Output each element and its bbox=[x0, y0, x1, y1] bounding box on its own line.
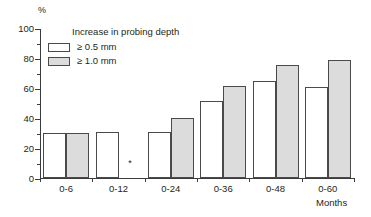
x-axis-tick-0-60 bbox=[302, 178, 303, 182]
bar-0-48-series-2 bbox=[276, 65, 299, 178]
x-axis-label-0-36: 0-36 bbox=[197, 183, 249, 194]
x-axis-label-0-24: 0-24 bbox=[145, 183, 197, 194]
y-axis-tick-60 bbox=[35, 89, 40, 90]
x-axis-label-0-48: 0-48 bbox=[249, 183, 301, 194]
y-axis-tick-10 bbox=[37, 164, 40, 165]
y-axis-tick-40 bbox=[35, 119, 40, 120]
bar-chart: % 100 80 60 40 20 0 0-6*0-120-240-360-48… bbox=[0, 0, 371, 217]
x-axis-tick-0-48 bbox=[249, 178, 250, 182]
x-axis-label-0-6: 0-6 bbox=[40, 183, 92, 194]
bar-0-24-series-1 bbox=[148, 132, 171, 178]
legend-swatch-icon-series-a bbox=[48, 43, 70, 52]
y-axis-label-20: 20 bbox=[8, 144, 34, 154]
bar-0-36-series-2 bbox=[223, 86, 246, 178]
y-axis-label-80: 80 bbox=[8, 54, 34, 64]
y-axis-tick-80 bbox=[35, 59, 40, 60]
y-axis-tick-90 bbox=[37, 44, 40, 45]
legend-label-series-b: ≥ 1.0 mm bbox=[77, 56, 117, 66]
missing-value-marker-0-12: * bbox=[119, 159, 142, 168]
x-axis-tick-0-6 bbox=[40, 178, 41, 182]
chart-legend: Increase in probing depth ≥ 0.5 mm ≥ 1.0… bbox=[48, 26, 248, 68]
x-axis-unit-label: Months bbox=[316, 198, 347, 208]
bar-0-6-series-2 bbox=[66, 133, 89, 178]
y-axis-unit-label: % bbox=[38, 6, 46, 15]
y-axis-label-100: 100 bbox=[8, 24, 34, 34]
legend-item-series-b: ≥ 1.0 mm bbox=[48, 54, 248, 68]
legend-label-series-a: ≥ 0.5 mm bbox=[77, 42, 117, 52]
y-axis-label-60: 60 bbox=[8, 84, 34, 94]
y-axis-line bbox=[40, 29, 41, 179]
bar-0-36-series-1 bbox=[200, 101, 223, 178]
legend-item-series-a: ≥ 0.5 mm bbox=[48, 40, 248, 54]
x-axis-tick-0-24 bbox=[145, 178, 146, 182]
x-axis-tick-0-36 bbox=[197, 178, 198, 182]
bar-0-6-series-1 bbox=[43, 133, 66, 178]
bar-0-60-series-2 bbox=[328, 60, 351, 178]
y-axis-tick-30 bbox=[37, 134, 40, 135]
bar-0-60-series-1 bbox=[305, 87, 328, 178]
legend-swatch-icon-series-b bbox=[48, 57, 70, 66]
x-axis-tick-0-12 bbox=[92, 178, 93, 182]
x-axis-label-0-60: 0-60 bbox=[302, 183, 354, 194]
bar-0-24-series-2 bbox=[171, 118, 194, 178]
x-axis-label-0-12: 0-12 bbox=[92, 183, 144, 194]
y-axis-label-40: 40 bbox=[8, 114, 34, 124]
y-axis-tick-100 bbox=[35, 29, 40, 30]
y-axis-label-0: 0 bbox=[8, 174, 34, 184]
y-axis-tick-20 bbox=[35, 149, 40, 150]
y-axis-tick-50 bbox=[37, 104, 40, 105]
legend-title: Increase in probing depth bbox=[72, 26, 248, 37]
bar-0-48-series-1 bbox=[253, 81, 276, 178]
bar-0-12-series-1 bbox=[96, 132, 119, 178]
x-axis-tick-end bbox=[354, 178, 355, 182]
y-axis-tick-70 bbox=[37, 74, 40, 75]
